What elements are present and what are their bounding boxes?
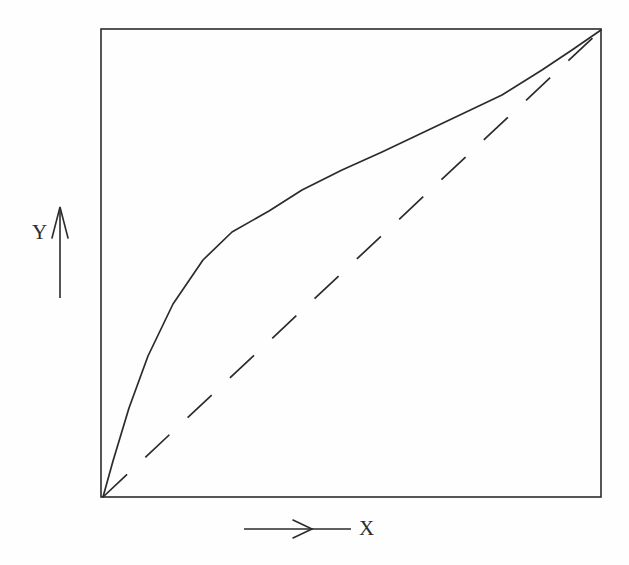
y-axis-label: Y	[32, 222, 48, 243]
x-direction-arrow	[244, 520, 351, 538]
x-axis-label: X	[359, 518, 375, 539]
series-diagonal-reference	[103, 30, 601, 497]
figure-canvas: Y X	[0, 0, 629, 565]
plot-svg	[0, 0, 629, 565]
y-direction-arrow	[52, 207, 68, 298]
